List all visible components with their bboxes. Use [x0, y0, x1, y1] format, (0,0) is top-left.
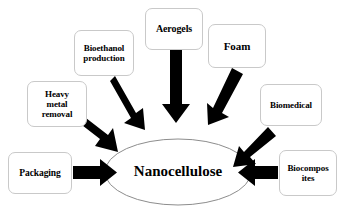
node-biomedical[interactable]: Biomedical [260, 84, 322, 126]
node-packaging[interactable]: Packaging [8, 152, 72, 194]
node-heavy-metal-removal-label-line-1: Heavy [45, 89, 69, 99]
center-node-label: Nanocellulose [105, 163, 251, 180]
node-bioethanol-production-label-line-1: Bioethanol [84, 43, 125, 53]
node-bioethanol-production-label-line-2: production [83, 53, 124, 63]
node-heavy-metal-removal[interactable]: Heavy metal removal [27, 81, 87, 127]
nanocellulose-applications-diagram: Nanocellulose Packaging Heavy metal remo… [0, 0, 347, 224]
node-aerogels-label: Aerogels [156, 23, 192, 34]
arrow-aerogels [162, 50, 190, 123]
arrow-bioethanol-production [110, 76, 145, 130]
node-bioethanol-production[interactable]: Bioethanol production [74, 30, 134, 76]
node-biocomposites-label-line-1: Biocompos [287, 163, 328, 173]
node-foam-label: Foam [224, 40, 250, 52]
node-biocomposites[interactable]: Biocompos ites [279, 150, 337, 196]
node-aerogels[interactable]: Aerogels [145, 8, 203, 50]
node-heavy-metal-removal-label-line-3: removal [42, 109, 73, 119]
node-foam[interactable]: Foam [208, 24, 266, 68]
node-heavy-metal-removal-label-line-2: metal [47, 99, 68, 109]
node-biocomposites-label-line-2: ites [302, 173, 315, 183]
node-biomedical-label: Biomedical [270, 100, 312, 110]
node-packaging-label: Packaging [19, 168, 60, 179]
arrow-foam [207, 68, 243, 125]
